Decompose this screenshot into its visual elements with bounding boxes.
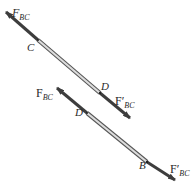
label-point-B: B [139,160,146,171]
point-D-top-marker [99,92,101,94]
force-symbol: F [36,86,43,100]
label-force-FprimeBC-bottom-right: F′BC [170,160,190,176]
bar-DB-fill [87,113,147,162]
point-D-top-text: D [101,80,109,92]
point-D-bottom-text: D [75,106,83,118]
force-symbol: F′ [115,94,124,108]
point-C-marker [37,39,39,41]
label-point-D-top: D [101,81,109,92]
point-D-bottom-marker [86,112,88,114]
force-subscript: BC [43,93,53,102]
force-subscript: BC [19,13,29,22]
point-B-text: B [139,159,146,171]
free-body-diagram [0,0,193,183]
force-subscript: BC [124,101,134,110]
force-symbol: F′ [170,162,179,176]
label-point-C: C [27,42,34,53]
member-CD [6,12,130,118]
label-force-FBC-mid-left: FBC [36,84,53,100]
point-B-marker [146,161,148,163]
force-subscript: BC [179,169,189,178]
label-force-FBC-top-left: FBC [12,4,30,20]
label-point-D-bottom: D [75,107,83,118]
label-force-FprimeBC-top-right: F′BC [115,92,135,108]
point-C-text: C [27,41,34,53]
